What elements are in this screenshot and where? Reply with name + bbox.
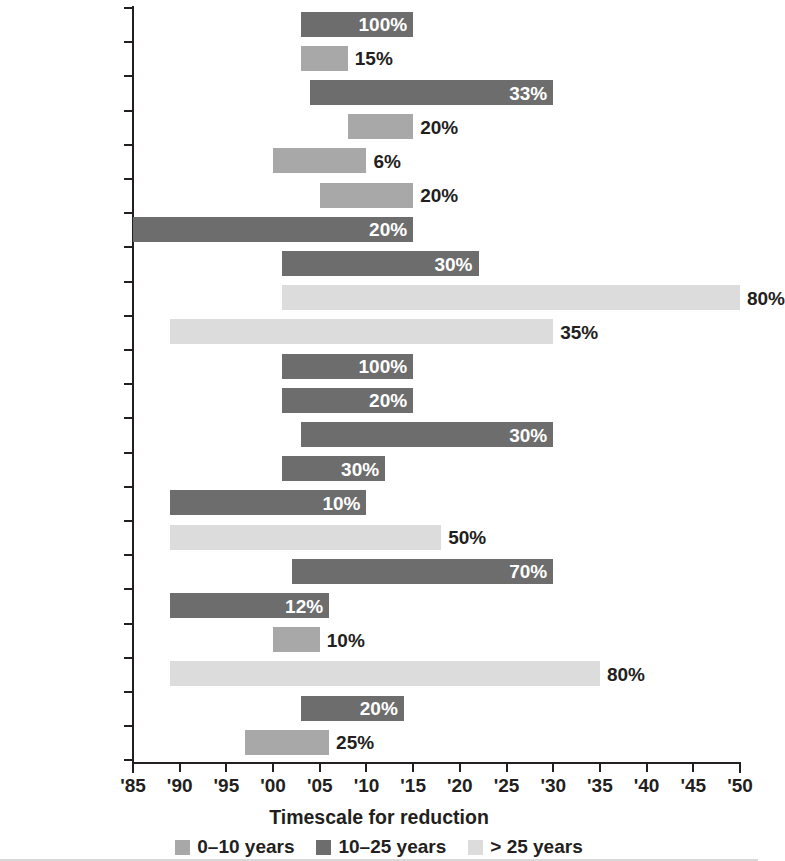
bar-melbourne: 100% bbox=[282, 354, 413, 379]
y-axis-tick bbox=[124, 452, 133, 454]
x-axis-tick bbox=[459, 764, 461, 772]
y-axis-tick bbox=[124, 246, 133, 248]
y-axis-tick bbox=[124, 144, 133, 146]
x-axis-tick-label: '20 bbox=[447, 775, 473, 797]
bar-toronto: 80% bbox=[170, 661, 600, 686]
legend-item: > 25 years bbox=[468, 836, 582, 858]
bar-value-label: 30% bbox=[434, 254, 472, 273]
x-axis-tick-label: '95 bbox=[214, 775, 240, 797]
bar-rotterdam: 50% bbox=[170, 525, 441, 550]
bar-value-label: 15% bbox=[355, 49, 393, 68]
y-axis-tick bbox=[124, 554, 133, 556]
y-axis-tick bbox=[124, 657, 133, 659]
legend-swatch-icon bbox=[175, 840, 190, 855]
bar-jakarta: 30% bbox=[282, 251, 478, 276]
bar-value-label: 10% bbox=[327, 630, 365, 649]
y-axis-tick bbox=[124, 349, 133, 351]
y-axis-tick bbox=[124, 520, 133, 522]
y-axis-tick bbox=[124, 486, 133, 488]
bar-value-label: 70% bbox=[509, 562, 547, 581]
bar-value-label: 80% bbox=[607, 664, 645, 683]
x-axis-tick bbox=[319, 764, 321, 772]
legend-item: 0–10 years bbox=[175, 836, 294, 858]
x-axis-tick bbox=[132, 764, 134, 773]
bar-buenos-aires: 33% bbox=[310, 80, 553, 105]
y-axis-tick bbox=[124, 623, 133, 625]
bar-heidelberg: 20% bbox=[133, 217, 413, 242]
x-axis-tick-label: '15 bbox=[400, 775, 426, 797]
legend-swatch-icon bbox=[468, 840, 483, 855]
bar-tokyo: 10% bbox=[273, 627, 320, 652]
y-axis-tick bbox=[124, 41, 133, 43]
x-axis-tick-label: '35 bbox=[587, 775, 613, 797]
x-axis-tick-label: '45 bbox=[680, 775, 706, 797]
bar-yokohama: 25% bbox=[245, 730, 329, 755]
bar-new-orleans: 30% bbox=[301, 422, 553, 447]
bar-value-label: 10% bbox=[322, 493, 360, 512]
bar-value-label: 100% bbox=[359, 15, 408, 34]
legend-label: > 25 years bbox=[490, 836, 582, 858]
bar-value-label: 35% bbox=[560, 322, 598, 341]
x-axis-tick-label: '10 bbox=[354, 775, 380, 797]
bar-value-label: 20% bbox=[420, 186, 458, 205]
bar-warsaw: 20% bbox=[301, 696, 404, 721]
bar-austin: 100% bbox=[301, 12, 413, 37]
x-axis-tick-label: '40 bbox=[634, 775, 660, 797]
bar-chicago: 6% bbox=[273, 148, 366, 173]
y-axis-tick bbox=[124, 315, 133, 317]
bar-value-label: 80% bbox=[747, 288, 785, 307]
y-axis-tick bbox=[124, 212, 133, 214]
x-axis-tick bbox=[412, 764, 414, 772]
bar-value-label: 6% bbox=[373, 151, 400, 170]
x-axis-tick-label: '25 bbox=[494, 775, 520, 797]
x-axis-tick bbox=[692, 764, 694, 772]
y-axis-tick bbox=[124, 759, 133, 761]
x-axis-tick-label: '30 bbox=[540, 775, 566, 797]
x-axis-tick bbox=[506, 764, 508, 772]
bar-copenhagen: 20% bbox=[320, 183, 413, 208]
legend-label: 10–25 years bbox=[338, 836, 446, 858]
x-axis-tick bbox=[552, 764, 554, 772]
bar-bangkok: 15% bbox=[301, 46, 348, 71]
y-axis-tick bbox=[124, 725, 133, 727]
bar-value-label: 20% bbox=[369, 220, 407, 239]
bar-value-label: 33% bbox=[509, 83, 547, 102]
x-axis-tick bbox=[646, 764, 648, 772]
bar-value-label: 50% bbox=[448, 528, 486, 547]
bar-value-label: 20% bbox=[369, 391, 407, 410]
legend-label: 0–10 years bbox=[197, 836, 294, 858]
y-axis-tick bbox=[124, 691, 133, 693]
legend-item: 10–25 years bbox=[316, 836, 446, 858]
bar-value-label: 30% bbox=[341, 459, 379, 478]
bar-philadelphia: 12% bbox=[170, 593, 329, 618]
x-axis-tick bbox=[599, 764, 601, 772]
y-axis-tick bbox=[124, 281, 133, 283]
y-axis-tick bbox=[124, 110, 133, 112]
x-axis-tick-label: '00 bbox=[260, 775, 286, 797]
y-axis-tick bbox=[124, 417, 133, 419]
x-axis-tick bbox=[179, 764, 181, 772]
plot-area: 100%15%33%20%6%20%20%30%80%35%100%20%30%… bbox=[133, 8, 740, 760]
bar-los-angeles: 35% bbox=[170, 319, 553, 344]
bar-milan: 20% bbox=[282, 388, 413, 413]
x-axis-tick-label: '50 bbox=[727, 775, 753, 797]
y-axis-tick bbox=[124, 383, 133, 385]
y-axis-tick bbox=[124, 178, 133, 180]
x-axis-tick bbox=[739, 764, 741, 773]
bar-portland: 10% bbox=[170, 490, 366, 515]
x-axis-tick bbox=[272, 764, 274, 772]
bar-value-label: 100% bbox=[359, 357, 408, 376]
x-axis-line bbox=[132, 762, 741, 764]
y-axis-tick bbox=[124, 75, 133, 77]
bar-changwon: 20% bbox=[348, 114, 413, 139]
x-axis-tick bbox=[225, 764, 227, 772]
x-axis-tick-label: '90 bbox=[167, 775, 193, 797]
y-axis-tick bbox=[124, 7, 133, 9]
x-axis-tick bbox=[365, 764, 367, 772]
x-axis-title: Timescale for reduction bbox=[0, 806, 758, 829]
bar-value-label: 20% bbox=[360, 699, 398, 718]
legend-swatch-icon bbox=[316, 840, 331, 855]
bar-value-label: 12% bbox=[285, 596, 323, 615]
legend: 0–10 years10–25 years> 25 years bbox=[0, 836, 758, 858]
